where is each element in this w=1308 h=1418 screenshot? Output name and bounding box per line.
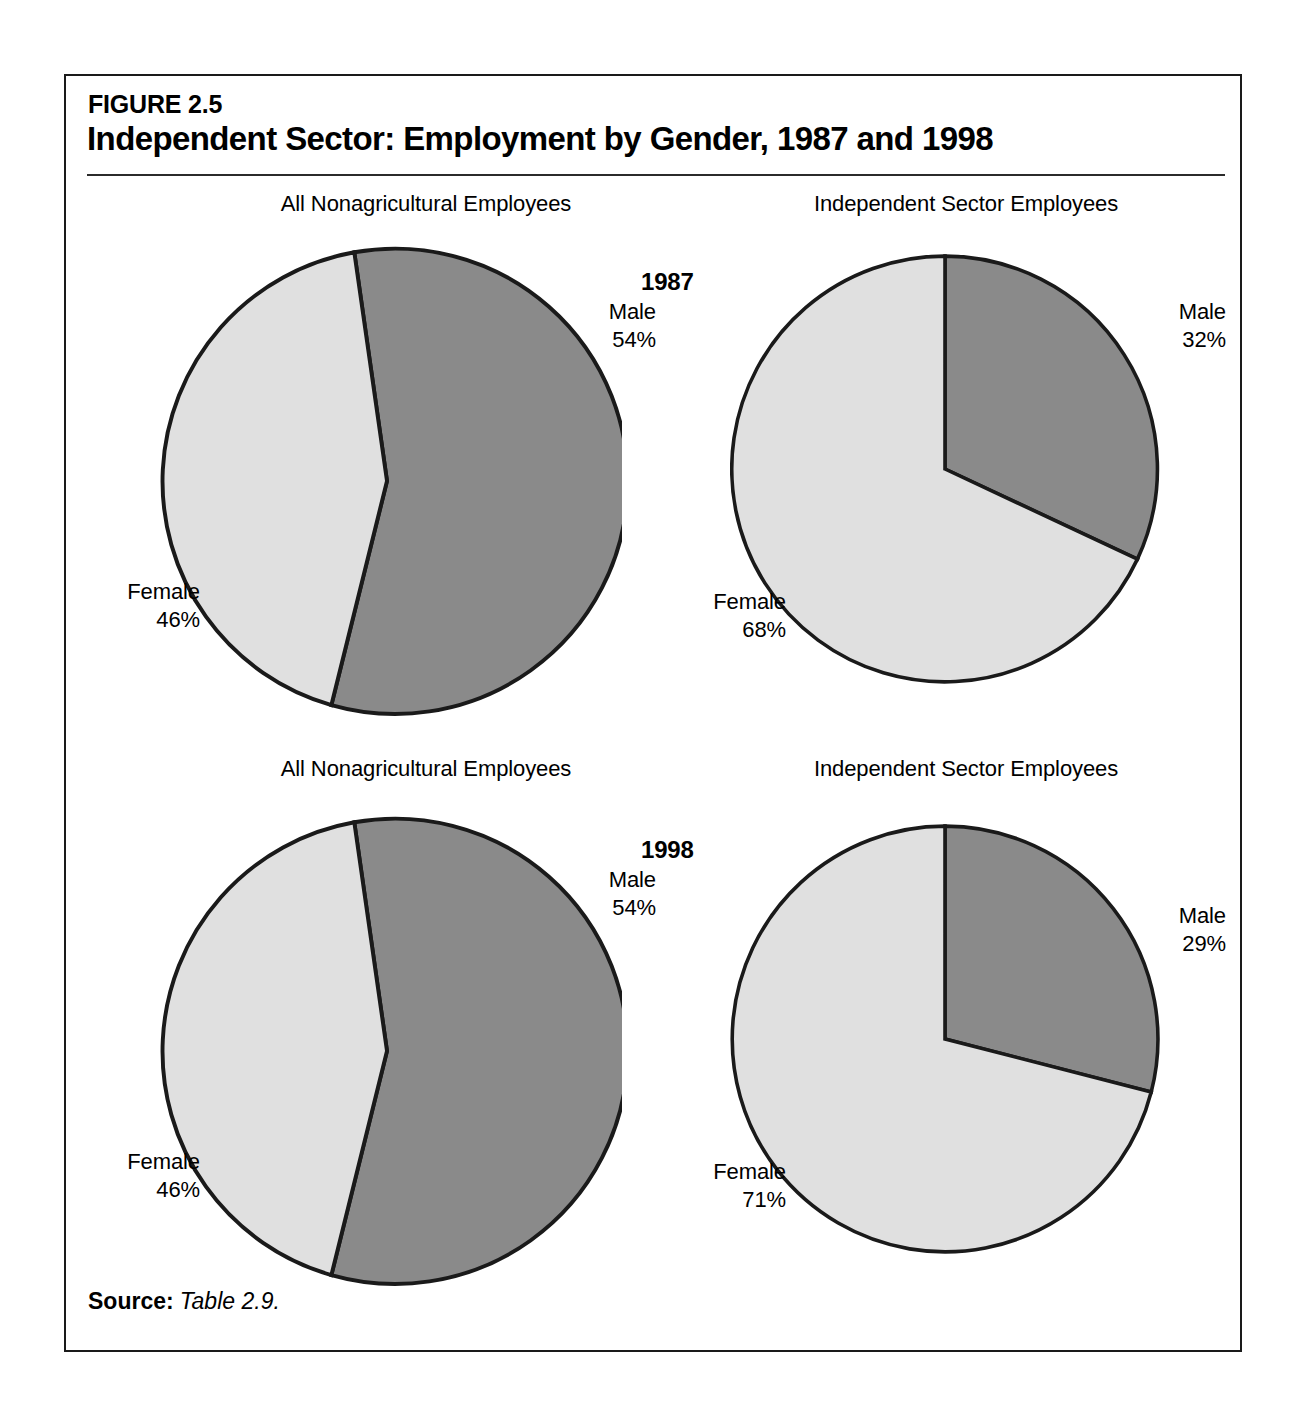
slice-label-male-percent: 54% [536,326,656,354]
pie-svg-independent-sector-1998 [730,824,1160,1254]
slice-label-male-all-1998: Male 54% [536,866,656,922]
column-heading-independent-sector-1987: Independent Sector Employees [726,191,1206,217]
slice-label-female-percent: 68% [666,616,786,644]
source-line: Source:Table 2.9. [88,1288,280,1315]
slice-label-female-all-1987: Female 46% [80,578,200,634]
slice-label-male-name: Male [609,299,656,324]
slice-label-male-percent: 32% [1106,326,1226,354]
source-label: Source: [88,1288,174,1314]
slice-label-female-percent: 46% [80,1176,200,1204]
slice-label-female-name: Female [713,1159,786,1184]
slice-label-male-percent: 54% [536,894,656,922]
pie-svg-independent-sector-1987 [730,254,1160,684]
slice-label-female-independent-1987: Female 68% [666,588,786,644]
slice-label-male-independent-1998: Male 29% [1106,902,1226,958]
source-text: Table 2.9. [180,1288,280,1314]
column-heading-independent-sector-1998: Independent Sector Employees [726,756,1206,782]
slice-label-male-percent: 29% [1106,930,1226,958]
pie-chart-independent-sector-1998 [730,824,1160,1254]
slice-label-female-percent: 46% [80,606,200,634]
slice-label-male-name: Male [1179,299,1226,324]
slice-label-female-independent-1998: Female 71% [666,1158,786,1214]
figure-number: FIGURE 2.5 [88,90,222,119]
year-label-1987: 1987 [641,268,694,296]
pie-chart-independent-sector-1987 [730,254,1160,684]
column-heading-all-nonagricultural-1987: All Nonagricultural Employees [166,191,686,217]
title-divider [87,174,1225,176]
year-label-1998: 1998 [641,836,694,864]
slice-label-female-percent: 71% [666,1186,786,1214]
column-heading-all-nonagricultural-1998: All Nonagricultural Employees [166,756,686,782]
slice-label-male-independent-1987: Male 32% [1106,298,1226,354]
slice-label-male-name: Male [1179,903,1226,928]
figure-title: Independent Sector: Employment by Gender… [87,120,993,158]
slice-label-male-name: Male [609,867,656,892]
slice-label-female-name: Female [713,589,786,614]
slice-label-female-all-1998: Female 46% [80,1148,200,1204]
slice-label-male-all-1987: Male 54% [536,298,656,354]
slice-label-female-name: Female [127,579,200,604]
figure-frame: FIGURE 2.5 Independent Sector: Employmen… [64,74,1242,1352]
slice-label-female-name: Female [127,1149,200,1174]
